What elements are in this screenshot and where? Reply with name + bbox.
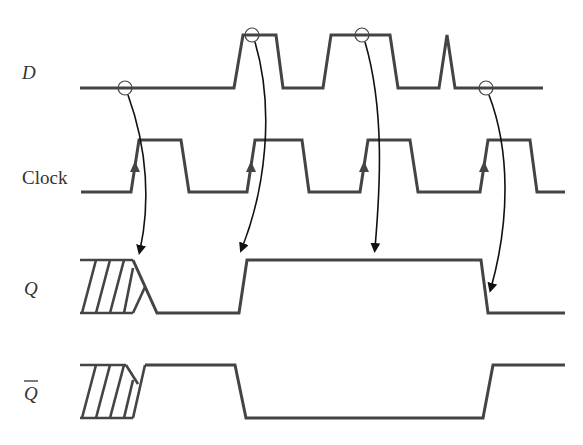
signal-clock-waveform — [81, 140, 565, 192]
sample-point-circles — [118, 28, 493, 95]
causal-arrow — [489, 95, 505, 288]
signal-q-waveform — [133, 260, 565, 313]
rising-edge-arrow-icon — [359, 161, 369, 172]
causal-arrow — [128, 95, 146, 250]
label-q: Q — [24, 278, 38, 299]
rising-edge-arrow-icon — [479, 161, 489, 172]
rising-edge-arrow-icon — [246, 161, 256, 172]
q-bar-undefined-hatch — [80, 365, 145, 418]
label-clock: Clock — [22, 167, 68, 188]
signal-q-bar — [80, 365, 565, 418]
label-q-bar-text: Q — [24, 383, 38, 404]
signal-d-waveform — [80, 35, 543, 88]
label-d: D — [21, 62, 36, 83]
rising-edge-arrow-icon — [130, 161, 140, 172]
signal-q — [80, 260, 565, 313]
timing-diagram: D Clock Q Q — [0, 0, 583, 445]
label-q-bar: Q — [24, 381, 38, 404]
signal-q-bar-waveform — [145, 365, 565, 418]
